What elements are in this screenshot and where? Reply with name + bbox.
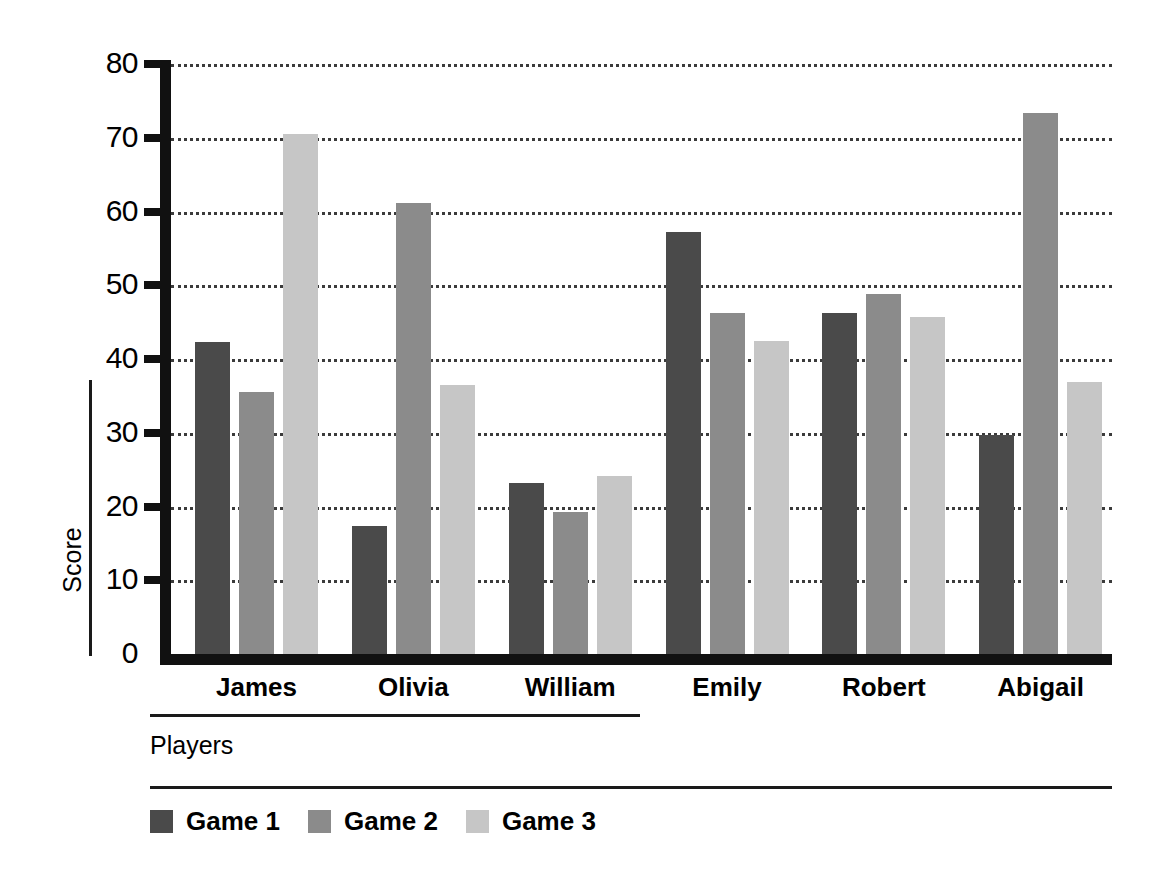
bar (979, 435, 1014, 654)
x-axis-title-rule (150, 714, 640, 717)
legend-label: Game 3 (502, 806, 596, 837)
y-axis-tick-label: 10 (106, 564, 138, 594)
bar (509, 483, 544, 654)
bar (822, 313, 857, 654)
bar (553, 512, 588, 654)
x-axis-title: Players (150, 731, 233, 760)
y-axis-tick-label: 50 (106, 269, 138, 299)
y-axis-tick (144, 576, 161, 584)
y-axis-tick (144, 134, 161, 142)
legend-item[interactable]: Game 2 (308, 806, 438, 837)
bar (666, 232, 701, 654)
y-axis-tick (144, 60, 161, 68)
y-axis-tick (144, 208, 161, 216)
y-axis-tick-label: 0 (122, 638, 138, 668)
y-axis-tick (144, 355, 161, 363)
x-axis-baseline (160, 654, 1112, 665)
legend-rule (150, 786, 1112, 789)
legend-swatch-icon (466, 810, 489, 833)
x-axis-category-label: Olivia (332, 672, 495, 703)
legend-swatch-icon (150, 810, 173, 833)
bar (866, 294, 901, 654)
legend-label: Game 2 (344, 806, 438, 837)
x-axis-category-label: James (175, 672, 338, 703)
bar-chart-figure: 01020304050607080 JamesOliviaWilliamEmil… (0, 0, 1173, 873)
bar (283, 134, 318, 654)
y-axis-tick-label: 60 (106, 196, 138, 226)
x-axis-category-label: Robert (802, 672, 965, 703)
y-axis-spine (160, 60, 171, 660)
y-axis-tick (144, 281, 161, 289)
y-axis-tick (144, 429, 161, 437)
bar (1067, 382, 1102, 654)
x-axis-category-label: Emily (646, 672, 809, 703)
y-axis-title: Score (58, 480, 87, 640)
y-axis-tick (144, 503, 161, 511)
legend-item[interactable]: Game 1 (150, 806, 280, 837)
legend-item[interactable]: Game 3 (466, 806, 596, 837)
x-axis-category-label: William (489, 672, 652, 703)
y-axis-tick-label: 20 (106, 491, 138, 521)
chart-legend: Game 1Game 2Game 3 (150, 803, 624, 839)
bar (910, 317, 945, 654)
bar (440, 385, 475, 654)
bar (352, 526, 387, 654)
plot-area (171, 64, 1112, 654)
bar (710, 313, 745, 654)
y-axis-tick-label: 40 (106, 343, 138, 373)
bar (195, 342, 230, 654)
legend-swatch-icon (308, 810, 331, 833)
y-axis-tick-label: 80 (106, 48, 138, 78)
y-axis-tick-label: 70 (106, 122, 138, 152)
legend-label: Game 1 (186, 806, 280, 837)
bar (754, 341, 789, 654)
y-axis-tick-label: 30 (106, 417, 138, 447)
x-axis-category-label: Abigail (959, 672, 1122, 703)
bar (396, 203, 431, 654)
y-axis-title-rule (89, 380, 92, 656)
bar (239, 392, 274, 654)
bar (597, 476, 632, 654)
bar (1023, 113, 1058, 654)
